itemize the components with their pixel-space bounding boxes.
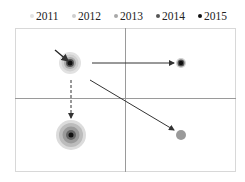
plot-area [0,0,245,182]
arrow-upper-left-to-lower-right [90,80,174,130]
bubble-lower-right [176,130,186,140]
bubble-lower-left [56,120,86,150]
bubble-upper-left [59,52,81,74]
bubble-upper-right [176,58,186,68]
